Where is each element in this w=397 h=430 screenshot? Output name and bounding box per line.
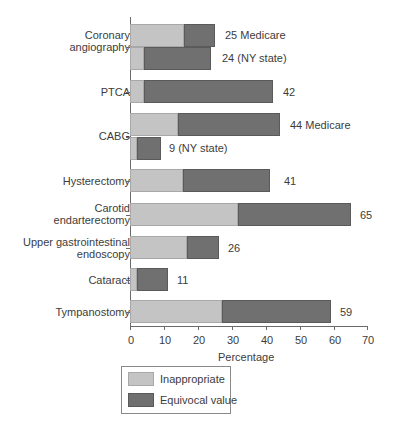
x-tick xyxy=(232,326,233,330)
segment-equivocal xyxy=(178,113,280,136)
bar-annotation: 11 xyxy=(177,274,188,286)
segment-equivocal xyxy=(187,236,219,259)
bar-annotation: 59 xyxy=(340,306,352,318)
segment-equivocal xyxy=(144,47,211,70)
x-tick-label: 70 xyxy=(358,334,378,346)
x-tick xyxy=(367,326,368,330)
segment-inappropriate xyxy=(130,80,144,103)
category-label-hysterectomy: Hysterectomy xyxy=(63,175,130,187)
category-label-tympanostomy: Tympanostomy xyxy=(55,306,130,318)
segment-inappropriate xyxy=(130,24,184,47)
x-tick xyxy=(266,326,267,330)
category-label-coronary-angiography: Coronary angiography xyxy=(69,29,130,53)
segment-equivocal xyxy=(144,80,273,103)
x-tick xyxy=(164,326,165,330)
x-tick-label: 0 xyxy=(121,334,141,346)
legend-label: Equivocal value xyxy=(160,393,237,407)
segment-inappropriate xyxy=(130,113,178,136)
x-tick-label: 60 xyxy=(325,334,345,346)
bar-coronary-angiography-ny-state xyxy=(130,47,211,70)
segment-equivocal xyxy=(184,24,215,47)
legend-swatch-inappropriate xyxy=(128,372,154,386)
bar-annotation: 25 Medicare xyxy=(225,29,286,41)
category-label-upper-gi-endoscopy: Upper gastrointestinal endoscopy xyxy=(23,236,130,260)
category-label-line1: Carotid xyxy=(54,202,130,214)
x-tick-label: 10 xyxy=(155,334,175,346)
x-tick-label: 40 xyxy=(257,334,277,346)
category-label-cabg: CABG xyxy=(99,130,130,142)
category-label-cataract: Cataract xyxy=(88,274,130,286)
segment-inappropriate xyxy=(130,300,222,323)
bar-annotation: 42 xyxy=(283,86,295,98)
bar-carotid-endarterectomy xyxy=(130,203,351,226)
segment-inappropriate xyxy=(130,47,144,70)
category-label-line2: angiography xyxy=(69,41,130,53)
category-label-line1: Upper gastrointestinal xyxy=(23,236,130,248)
legend-swatch-equivocal xyxy=(128,393,154,407)
segment-equivocal xyxy=(137,137,161,160)
stacked-bar-chart: Coronary angiography PTCA CABG Hysterect… xyxy=(0,0,397,430)
category-label-line1: Coronary xyxy=(69,29,130,41)
x-tick xyxy=(198,326,199,330)
x-axis-title: Percentage xyxy=(218,351,274,363)
legend: Inappropriate Equivocal value xyxy=(121,366,231,414)
x-axis xyxy=(130,326,368,327)
segment-inappropriate xyxy=(130,203,238,226)
x-tick xyxy=(300,326,301,330)
segment-equivocal xyxy=(183,169,270,192)
bar-annotation: 41 xyxy=(284,175,296,187)
bar-tympanostomy xyxy=(130,300,331,323)
category-label-line2: endarterectomy xyxy=(54,214,130,226)
bar-ptca xyxy=(130,80,273,103)
bar-hysterectomy xyxy=(130,169,270,192)
segment-inappropriate xyxy=(130,268,137,291)
segment-inappropriate xyxy=(130,236,187,259)
segment-inappropriate xyxy=(130,169,183,192)
segment-equivocal xyxy=(222,300,331,323)
bar-annotation: 24 (NY state) xyxy=(222,52,287,64)
bar-annotation: 65 xyxy=(360,209,372,221)
bar-cabg-ny-state xyxy=(130,137,161,160)
bar-cataract xyxy=(130,268,168,291)
category-label-line2: endoscopy xyxy=(23,248,130,260)
category-label-carotid-endarterectomy: Carotid endarterectomy xyxy=(54,202,130,226)
bar-cabg-medicare xyxy=(130,113,280,136)
x-tick xyxy=(334,326,335,330)
x-tick-label: 50 xyxy=(291,334,311,346)
bar-annotation: 44 Medicare xyxy=(290,119,351,131)
segment-equivocal xyxy=(238,203,351,226)
bar-annotation: 9 (NY state) xyxy=(169,142,228,154)
segment-equivocal xyxy=(137,268,168,291)
x-tick xyxy=(130,326,131,330)
bar-upper-gi-endoscopy xyxy=(130,236,219,259)
legend-label: Inappropriate xyxy=(160,372,225,386)
bar-annotation: 26 xyxy=(228,242,240,254)
x-tick-label: 20 xyxy=(189,334,209,346)
bar-coronary-angiography-medicare xyxy=(130,24,215,47)
segment-inappropriate xyxy=(130,137,137,160)
x-tick-label: 30 xyxy=(223,334,243,346)
